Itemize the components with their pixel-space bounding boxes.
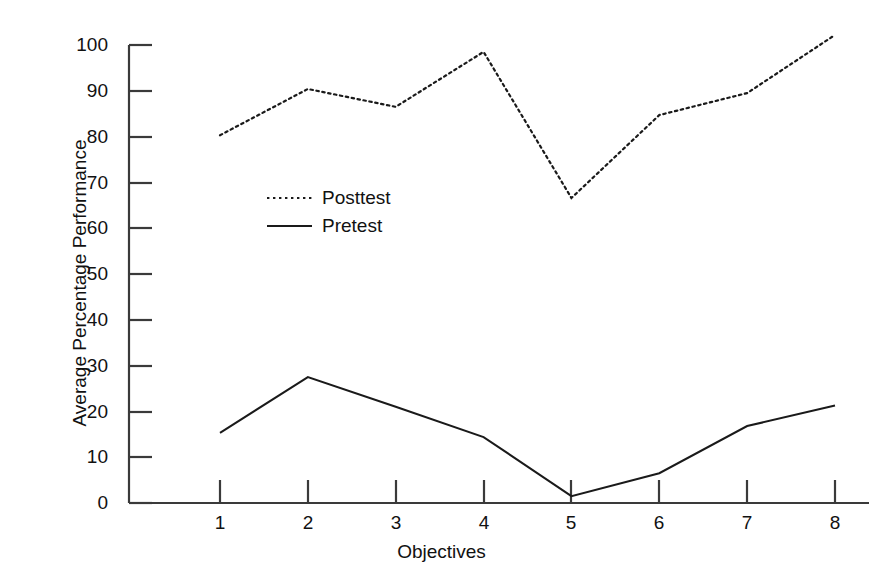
ytick-label-0: 0	[62, 492, 108, 514]
axis-lines	[129, 45, 869, 503]
y-axis-title: Average Percentage Performance	[69, 93, 91, 473]
xtick-label-7: 7	[732, 512, 762, 534]
xtick-label-3: 3	[381, 512, 411, 534]
xtick-label-4: 4	[469, 512, 499, 534]
x-axis-title: Objectives	[0, 541, 883, 563]
series-line-pretest	[220, 377, 835, 496]
x-axis-ticks	[220, 480, 835, 503]
plot-area	[0, 0, 883, 584]
series-line-posttest	[220, 35, 835, 198]
line-chart: 100 90 80 70 60 50 40 30 20 10 0 1 2 3 4…	[0, 0, 883, 584]
xtick-label-8: 8	[820, 512, 850, 534]
xtick-label-5: 5	[556, 512, 586, 534]
xtick-label-1: 1	[205, 512, 235, 534]
y-axis-ticks	[129, 45, 152, 503]
ytick-label-100: 100	[62, 34, 108, 56]
xtick-label-2: 2	[293, 512, 323, 534]
legend-label-posttest: Posttest	[322, 187, 391, 209]
legend-label-pretest: Pretest	[322, 215, 382, 237]
xtick-label-6: 6	[644, 512, 674, 534]
